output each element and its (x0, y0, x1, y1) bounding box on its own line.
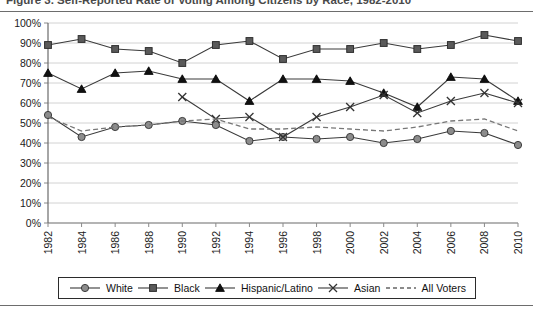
xtick-label: 1986 (109, 231, 121, 255)
series-hispanic-latino (44, 67, 523, 111)
xtick-label: 1988 (143, 231, 155, 255)
xtick-label: 1996 (277, 231, 289, 255)
data-point-marker (313, 46, 320, 53)
data-point-marker (78, 133, 85, 140)
chart-legend: WhiteBlackHispanic/LatinoAsianAll Voters (58, 277, 476, 299)
data-point-marker (447, 42, 454, 49)
dashed-line-icon (384, 281, 418, 295)
ytick-label: 40% (20, 137, 41, 149)
data-point-marker (45, 42, 52, 49)
series-line (182, 93, 518, 137)
figure-caption: Figure 3. Self-Reported Rate of Voting A… (6, 0, 526, 8)
data-point-marker (246, 137, 253, 144)
data-point-marker (112, 46, 119, 53)
ytick-label: 80% (20, 57, 41, 69)
ytick-label: 0% (26, 217, 41, 229)
square-icon (136, 281, 170, 295)
data-point-marker (414, 46, 421, 53)
top-divider (0, 11, 533, 12)
circle-icon (68, 281, 102, 295)
data-point-marker (347, 133, 354, 140)
legend-label: Asian (354, 282, 380, 294)
ytick-label: 90% (20, 37, 41, 49)
data-point-marker (246, 38, 253, 45)
legend-label: Hispanic/Latino (241, 282, 313, 294)
data-point-marker (481, 32, 488, 39)
legend-item-black[interactable]: Black (136, 281, 200, 295)
data-point-marker (380, 40, 387, 47)
data-point-marker (144, 67, 153, 75)
data-point-marker (212, 121, 219, 128)
data-point-marker (245, 97, 254, 105)
xtick-label: 2006 (445, 231, 457, 255)
ytick-label: 20% (20, 177, 41, 189)
ytick-label: 100% (14, 17, 41, 29)
ytick-label: 10% (20, 197, 41, 209)
legend-label: White (106, 282, 133, 294)
xtick-label: 1994 (243, 231, 255, 255)
data-point-marker (150, 285, 157, 292)
data-point-marker (78, 36, 85, 43)
data-point-marker (380, 139, 387, 146)
xtick-label: 1982 (42, 231, 54, 255)
xtick-label: 1990 (176, 231, 188, 255)
line-chart: 0%10%20%30%40%50%60%70%80%90%100%1982198… (0, 14, 533, 269)
data-point-marker (280, 56, 287, 63)
data-point-marker (44, 69, 53, 77)
xtick-label: 1992 (210, 231, 222, 255)
xtick-label: 1998 (311, 231, 323, 255)
data-point-marker (515, 38, 522, 45)
legend-label: All Voters (422, 282, 466, 294)
data-point-marker (81, 284, 88, 291)
xtick-label: 2008 (478, 231, 490, 255)
data-point-marker (77, 85, 86, 93)
legend-label: Black (174, 282, 200, 294)
legend-item-hispanic-latino[interactable]: Hispanic/Latino (203, 281, 313, 295)
series-black (45, 32, 522, 67)
xtick-label: 1984 (76, 231, 88, 255)
data-point-marker (414, 135, 421, 142)
chart-plot-area: 0%10%20%30%40%50%60%70%80%90%100%1982198… (0, 14, 533, 269)
data-point-marker (447, 127, 454, 134)
ytick-label: 70% (20, 77, 41, 89)
ytick-label: 30% (20, 157, 41, 169)
xtick-label: 2002 (378, 231, 390, 255)
data-point-marker (446, 73, 455, 81)
x-icon (316, 281, 350, 295)
figure-root: Figure 3. Self-Reported Rate of Voting A… (0, 0, 533, 313)
bottom-divider (0, 305, 533, 306)
data-point-marker (313, 135, 320, 142)
legend-item-white[interactable]: White (68, 281, 133, 295)
data-point-marker (347, 46, 354, 53)
data-point-marker (179, 60, 186, 67)
data-point-marker (481, 129, 488, 136)
xtick-label: 2004 (411, 231, 423, 255)
data-point-marker (212, 42, 219, 49)
legend-item-asian[interactable]: Asian (316, 281, 380, 295)
triangle-icon (203, 281, 237, 295)
data-point-marker (514, 141, 521, 148)
data-point-marker (145, 48, 152, 55)
ytick-label: 60% (20, 97, 41, 109)
xtick-label: 2010 (512, 231, 524, 255)
legend-item-all-voters[interactable]: All Voters (384, 281, 466, 295)
xtick-label: 2000 (344, 231, 356, 255)
ytick-label: 50% (20, 117, 41, 129)
